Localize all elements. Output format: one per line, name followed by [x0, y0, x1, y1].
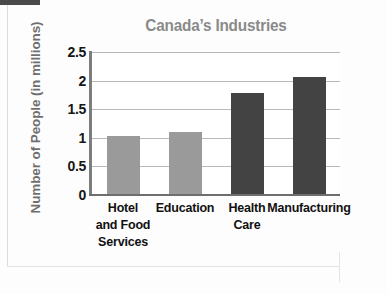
y-axis-tick-label: 1	[52, 130, 86, 146]
x-axis-line	[89, 194, 340, 196]
x-axis-tick-label-line: and Food	[75, 217, 171, 234]
chart-title: Canada’s Industries	[108, 16, 324, 36]
scan-artifact-right-edge	[339, 252, 340, 282]
plot-area	[92, 52, 340, 195]
chart-figure: Canada’s Industries Number of People (in…	[0, 0, 387, 294]
x-axis-tick-label-line: Care	[199, 217, 295, 234]
x-axis-tick-label-line: Services	[75, 234, 171, 251]
y-axis-line	[89, 51, 92, 196]
gridline	[92, 52, 340, 53]
y-axis-title: Number of People (in millions)	[28, 13, 43, 223]
bar	[169, 132, 202, 195]
bar	[231, 93, 264, 195]
x-axis-tick-label: Manufacturing	[261, 200, 357, 217]
y-axis-tick-label: 1.5	[52, 101, 86, 117]
scan-artifact-top-strip	[0, 0, 40, 5]
scan-artifact-left-edge	[7, 5, 8, 267]
y-axis-tick-label: 2	[52, 73, 86, 89]
bar	[293, 77, 326, 195]
y-axis-tick-label: 0.5	[52, 158, 86, 174]
x-axis-tick-label-line: Manufacturing	[261, 200, 357, 217]
bar	[107, 136, 140, 195]
y-axis-tick-label: 2.5	[52, 44, 86, 60]
